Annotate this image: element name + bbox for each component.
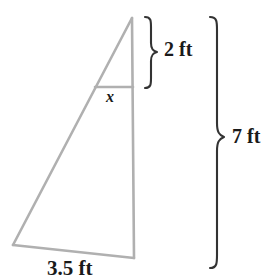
brace-right — [210, 17, 224, 268]
label-base: 3.5 ft — [47, 258, 93, 279]
brace-top — [145, 17, 157, 88]
figure-drawing — [0, 0, 265, 280]
main-triangle — [13, 18, 134, 258]
triangle-left-side — [13, 18, 132, 245]
label-right-brace: 7 ft — [232, 126, 260, 146]
triangle-right-side — [132, 18, 134, 258]
label-unknown-segment: x — [106, 89, 114, 105]
label-top-brace: 2 ft — [164, 39, 192, 59]
geometry-figure: 2 ft 7 ft 3.5 ft x — [0, 0, 265, 280]
